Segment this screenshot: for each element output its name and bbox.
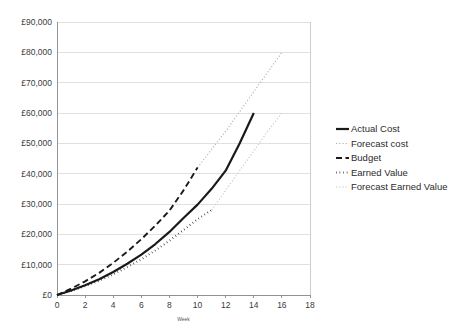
- y-axis-tick-label: £80,000: [21, 47, 52, 57]
- legend-label-budget: Budget: [351, 152, 381, 163]
- x-axis-tick-labels: 024681012141618: [55, 300, 315, 310]
- y-axis-tick-label: £20,000: [21, 229, 52, 239]
- y-axis-tick-label: £30,000: [21, 199, 52, 209]
- x-axis-tick-label: 16: [277, 300, 287, 310]
- y-axis-tick-label: £60,000: [21, 108, 52, 118]
- legend-label-forecast-earned-value: Forecast Earned Value: [351, 181, 447, 192]
- gridlines: [57, 22, 310, 295]
- x-axis-tick-label: 2: [83, 300, 88, 310]
- series-line-earned-value: [57, 210, 212, 295]
- y-axis-tick-label: £0: [43, 290, 53, 300]
- legend-label-earned-value: Earned Value: [351, 167, 408, 178]
- legend-label-forecast-cost: Forecast cost: [351, 138, 408, 149]
- y-axis-tick-labels: £0£10,000£20,000£30,000£40,000£50,000£60…: [21, 17, 52, 300]
- chart-container: £0£10,000£20,000£30,000£40,000£50,000£60…: [0, 0, 470, 329]
- x-axis-tick-label: 12: [221, 300, 231, 310]
- x-axis-tick-label: 14: [249, 300, 259, 310]
- x-axis-tickmarks: [57, 295, 310, 298]
- y-axis-tick-label: £40,000: [21, 169, 52, 179]
- line-chart: £0£10,000£20,000£30,000£40,000£50,000£60…: [0, 0, 470, 329]
- chart-legend: Actual CostForecast costBudgetEarned Val…: [336, 123, 447, 192]
- series-line-budget: [57, 168, 198, 295]
- x-axis-title: Week: [177, 316, 190, 322]
- y-axis-tick-label: £10,000: [21, 260, 52, 270]
- y-axis-tick-label: £50,000: [21, 138, 52, 148]
- legend-label-actual-cost: Actual Cost: [351, 123, 400, 134]
- series-line-forecast-cost: [198, 52, 282, 167]
- y-axis-tick-label: £90,000: [21, 17, 52, 27]
- y-axis-tick-label: £70,000: [21, 78, 52, 88]
- x-axis-tick-label: 8: [167, 300, 172, 310]
- plot-frame: [57, 22, 310, 295]
- x-axis-tick-label: 18: [305, 300, 315, 310]
- x-axis-tick-label: 0: [55, 300, 60, 310]
- x-axis-tick-label: 10: [193, 300, 203, 310]
- x-axis-tick-label: 4: [111, 300, 116, 310]
- x-axis-tick-label: 6: [139, 300, 144, 310]
